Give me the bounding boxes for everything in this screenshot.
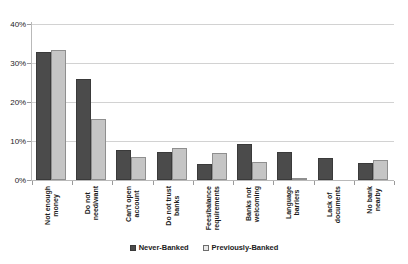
x-axis-tick-mark: [314, 181, 315, 185]
label-line: Can't open: [125, 186, 133, 222]
x-axis-category-label: Do notneed/want: [74, 186, 110, 236]
bar-never-banked: [358, 163, 373, 180]
label-line: Not enough: [44, 186, 52, 225]
label-line: No bank: [366, 186, 374, 214]
label-line: barriers: [293, 186, 301, 219]
x-axis-tick-mark: [32, 181, 33, 185]
bar-previously-banked: [172, 148, 187, 180]
chart-legend: Never-BankedPreviously-Banked: [0, 243, 408, 252]
label-line: documents: [334, 186, 342, 223]
light-gray-swatch: [203, 245, 209, 251]
bar-chart-figure: 0%10%20%30%40% Not enoughmoneyDo notneed…: [0, 0, 408, 264]
label-line: need/want: [92, 186, 100, 220]
x-axis-tick-mark: [72, 181, 73, 185]
x-axis-category-label: No banknearby: [356, 186, 392, 236]
bar-never-banked: [116, 150, 131, 180]
x-axis-category-label-text: Languagebarriers: [285, 186, 301, 219]
bar-never-banked: [76, 79, 91, 180]
x-axis-category-label-text: Do not trustbanks: [165, 186, 181, 226]
y-axis-tick-label: 30%: [0, 59, 26, 68]
bars-layer: [32, 24, 394, 180]
bar-never-banked: [197, 164, 212, 180]
bar-group: [193, 24, 233, 180]
bar-group: [112, 24, 152, 180]
x-axis-tick-mark: [273, 181, 274, 185]
y-axis-tick-label: 10%: [0, 137, 26, 146]
x-axis-category-label: Can't openaccount: [115, 186, 151, 236]
label-line: money: [52, 186, 60, 225]
x-axis-category-label: Do not trustbanks: [155, 186, 191, 236]
label-line: welcoming: [253, 186, 261, 222]
x-axis-tick-mark: [354, 181, 355, 185]
x-axis-category-label: Banks notwelcoming: [235, 186, 271, 236]
x-axis-category-label-text: Do notneed/want: [84, 186, 100, 220]
x-axis-tick-mark: [394, 181, 395, 185]
bar-group: [72, 24, 112, 180]
x-axis-category-label: Lack ofdocuments: [316, 186, 352, 236]
bar-never-banked: [157, 152, 172, 180]
legend-label: Previously-Banked: [212, 243, 279, 252]
x-axis-line: [31, 180, 394, 181]
bar-previously-banked: [91, 119, 106, 180]
label-line: Fees/balance: [205, 186, 213, 230]
bar-previously-banked: [292, 178, 307, 180]
x-axis-tick-mark: [233, 181, 234, 185]
bar-previously-banked: [373, 160, 388, 180]
bar-group: [273, 24, 313, 180]
bar-never-banked: [237, 144, 252, 180]
x-axis-category-label-text: Fees/balancerequirements: [205, 186, 221, 230]
legend-item[interactable]: Previously-Banked: [203, 243, 279, 252]
bar-previously-banked: [131, 157, 146, 180]
bar-previously-banked: [212, 153, 227, 180]
bar-never-banked: [318, 158, 333, 180]
label-line: account: [133, 186, 141, 222]
bar-group: [354, 24, 394, 180]
x-axis-category-label: Fees/balancerequirements: [195, 186, 231, 236]
x-axis-category-label-text: Can't openaccount: [125, 186, 141, 222]
bar-never-banked: [36, 52, 51, 180]
x-axis-tick-mark: [193, 181, 194, 185]
dark-gray-swatch: [130, 245, 136, 251]
bar-never-banked: [277, 152, 292, 180]
bar-previously-banked: [252, 162, 267, 180]
y-axis-tick-label: 0%: [0, 176, 26, 185]
y-axis-tick-label: 20%: [0, 98, 26, 107]
bar-group: [153, 24, 193, 180]
x-axis-tick-mark: [112, 181, 113, 185]
x-axis-category-label-text: Lack ofdocuments: [326, 186, 342, 223]
bar-previously-banked: [51, 50, 66, 180]
label-line: requirements: [213, 186, 221, 230]
label-line: banks: [173, 186, 181, 226]
label-line: Do not trust: [165, 186, 173, 226]
bar-group: [233, 24, 273, 180]
label-line: Lack of: [326, 186, 334, 223]
label-line: nearby: [374, 186, 382, 214]
x-axis-category-label-text: Banks notwelcoming: [245, 186, 261, 222]
x-axis-category-label-text: No banknearby: [366, 186, 382, 214]
bar-group: [314, 24, 354, 180]
x-axis-tick-mark: [153, 181, 154, 185]
x-axis-category-labels: Not enoughmoneyDo notneed/wantCan't open…: [32, 186, 394, 236]
x-axis-category-label: Languagebarriers: [275, 186, 311, 236]
legend-item[interactable]: Never-Banked: [130, 243, 189, 252]
legend-label: Never-Banked: [139, 243, 189, 252]
bar-group: [32, 24, 72, 180]
x-axis-category-label: Not enoughmoney: [34, 186, 70, 236]
y-axis-tick-label: 40%: [0, 20, 26, 29]
x-axis-category-label-text: Not enoughmoney: [44, 186, 60, 225]
